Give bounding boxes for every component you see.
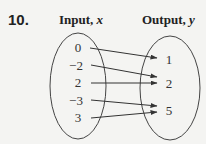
domain-value: 0 (75, 40, 82, 55)
mapping-diagram: 0 −2 2 −3 3 1 2 5 (0, 0, 206, 144)
domain-value: −3 (69, 93, 83, 108)
range-value: 1 (166, 52, 173, 67)
mapping-arrow (91, 65, 157, 77)
domain-value: −2 (69, 58, 83, 73)
domain-value: 2 (75, 75, 82, 90)
range-value: 5 (166, 103, 173, 118)
domain-value: 3 (75, 110, 82, 125)
range-value: 2 (166, 76, 173, 91)
mapping-arrow (91, 112, 157, 118)
mapping-arrow (91, 100, 157, 106)
